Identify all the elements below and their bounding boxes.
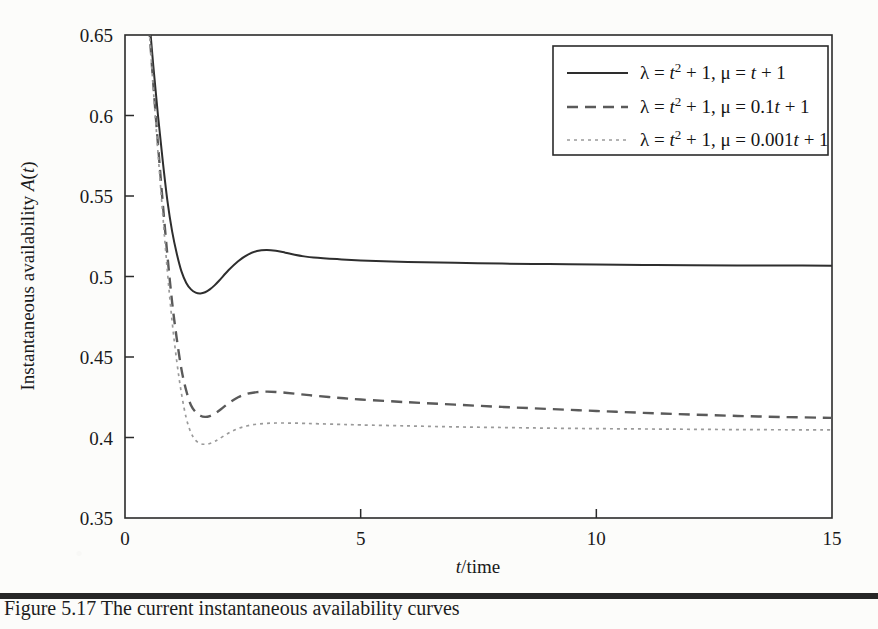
chart-figure: 0.350.40.450.50.550.60.65 051015 t/time … xyxy=(0,0,878,580)
y-axis-title: Instantaneous availability A(t) xyxy=(17,162,39,391)
legend-label-lambda-t2-mu-0.1t: λ = t2 + 1, μ = 0.1t + 1 xyxy=(640,94,810,117)
figure-caption: Figure 5.17 The current instantaneous av… xyxy=(4,601,874,620)
x-tick-label: 10 xyxy=(587,528,606,549)
x-tick-label: 0 xyxy=(120,528,130,549)
y-tick-label: 0.35 xyxy=(80,508,113,529)
y-tick-label: 0.6 xyxy=(89,106,113,127)
x-axis-title: t/time xyxy=(456,556,500,577)
y-tick-label: 0.4 xyxy=(89,428,113,449)
y-tick-label: 0.65 xyxy=(80,25,113,46)
caption-clip: Figure 5.17 The current instantaneous av… xyxy=(0,601,878,629)
caption-divider-rule xyxy=(0,593,878,599)
legend-label-lambda-t2-mu-t: λ = t2 + 1, μ = t + 1 xyxy=(640,60,786,83)
y-tick-label: 0.55 xyxy=(80,186,113,207)
x-tick-label: 5 xyxy=(356,528,366,549)
y-tick-label: 0.45 xyxy=(80,347,113,368)
y-tick-label: 0.5 xyxy=(89,267,113,288)
legend-label-lambda-t2-mu-0.001t: λ = t2 + 1, μ = 0.001t + 1 xyxy=(640,127,829,150)
availability-line-chart: 0.350.40.450.50.550.60.65 051015 t/time … xyxy=(0,0,878,580)
figure-page: 0.350.40.450.50.550.60.65 051015 t/time … xyxy=(0,0,878,629)
x-tick-label: 15 xyxy=(823,528,842,549)
chart-legend: λ = t2 + 1, μ = t + 1λ = t2 + 1, μ = 0.1… xyxy=(553,46,829,155)
